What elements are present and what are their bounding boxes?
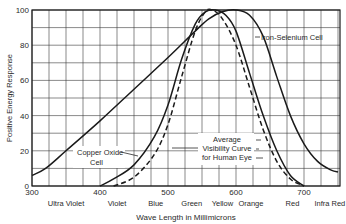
band-label: Blue [148,199,163,208]
band-label: Ultra Violet [48,199,85,208]
color-band-labels: Ultra VioletVioletBlueGreenYellowOrangeR… [48,199,346,208]
band-label: Infra Red [314,199,345,208]
y-tick-label: 80 [20,41,29,50]
x-tick-label: 600 [229,188,243,197]
svg-text:Average: Average [213,135,241,144]
annotation-copper-oxide: Copper Oxide Cell [73,146,138,168]
band-label: Green [181,199,202,208]
y-tick-label: 20 [20,147,29,156]
spectral-response-chart: 020406080100 300400500600700 Ultra Viole… [0,0,346,224]
x-tick-label: 400 [93,188,107,197]
y-tick-label: 40 [20,112,29,121]
x-axis-ticks: 300400500600700 [25,188,311,197]
y-tick-label: 100 [16,6,30,15]
x-tick-label: 700 [297,188,311,197]
band-label: Violet [108,199,128,208]
band-label: Red [286,199,300,208]
svg-text:Copper Oxide: Copper Oxide [77,148,123,157]
band-label: Yellow [212,199,234,208]
annotation-iron-selenium: Iron-Selenium Cell [255,33,323,42]
svg-text:Iron-Selenium Cell: Iron-Selenium Cell [261,33,323,42]
x-tick-label: 300 [25,188,39,197]
annotation-visibility-curve: Average Visibility Curve for Human Eye [172,133,263,165]
y-axis-ticks: 020406080100 [16,6,30,191]
svg-text:Cell: Cell [90,158,103,167]
y-axis-label: Positive Energy Response [5,54,14,142]
x-axis-label: Wave Length in Millimicrons [136,213,235,222]
svg-text:for Human Eye: for Human Eye [202,153,252,162]
y-tick-label: 60 [20,76,29,85]
band-label: Orange [238,199,263,208]
x-tick-label: 500 [161,188,175,197]
svg-text:Visibility Curve: Visibility Curve [202,144,251,153]
